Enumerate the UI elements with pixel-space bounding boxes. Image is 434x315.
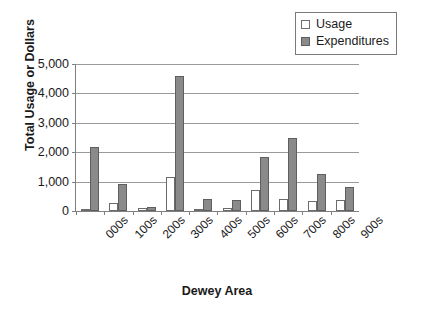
bar-group	[189, 64, 217, 211]
y-axis-tick-label: 1,000	[38, 175, 69, 188]
x-axis-tick-label: 700s	[301, 213, 329, 241]
y-axis-tick-label: 0	[62, 205, 69, 218]
usage-swatch-icon	[301, 20, 310, 29]
bar-usage	[138, 208, 147, 211]
bar-expenditures	[232, 200, 241, 211]
bar-usage	[109, 203, 118, 211]
bar-group	[274, 64, 302, 211]
x-axis-tick-label: 400s	[216, 213, 244, 241]
bar-usage	[166, 177, 175, 211]
expenditures-swatch-icon	[301, 37, 310, 46]
x-axis-tick-label: 900s	[358, 213, 386, 241]
y-axis-tick-label: 5,000	[38, 58, 69, 71]
bar-expenditures	[118, 184, 127, 211]
chart-legend: Usage Expenditures	[295, 12, 397, 55]
x-axis-tick-label: 600s	[273, 213, 301, 241]
bar-expenditures	[288, 138, 297, 211]
x-axis-tick-label: 500s	[244, 213, 272, 241]
legend-item-expenditures: Expenditures	[301, 33, 389, 50]
y-axis-tick-label: 2,000	[38, 146, 69, 159]
bar-usage	[81, 209, 90, 211]
bar-usage	[223, 208, 232, 211]
x-axis-tick-label: 800s	[329, 213, 357, 241]
x-axis-title: Dewey Area	[0, 284, 434, 298]
x-axis-tick-label: 000s	[103, 213, 131, 241]
bar-usage	[194, 209, 203, 211]
bar-group	[217, 64, 245, 211]
bar-group	[133, 64, 161, 211]
bar-usage	[279, 199, 288, 211]
bar-expenditures	[175, 76, 184, 211]
bar-expenditures	[345, 187, 354, 211]
x-axis-tick-label: 200s	[160, 213, 188, 241]
bar-expenditures	[317, 174, 326, 211]
bar-group	[161, 64, 189, 211]
plot-area: 01,0002,0003,0004,0005,000	[75, 64, 359, 212]
bar-groups	[76, 64, 359, 211]
legend-label-expenditures: Expenditures	[316, 35, 389, 48]
y-axis-tick-label: 3,000	[38, 117, 69, 130]
bar-usage	[308, 201, 317, 211]
bar-expenditures	[260, 157, 269, 211]
x-axis-tick-label: 100s	[131, 213, 159, 241]
y-axis-tick-label: 4,000	[38, 87, 69, 100]
bar-group	[246, 64, 274, 211]
bar-chart: Usage Expenditures Total Usage or Dollar…	[0, 0, 434, 315]
bar-expenditures	[90, 147, 99, 211]
bar-expenditures	[147, 207, 156, 211]
bar-group	[331, 64, 359, 211]
bar-group	[302, 64, 330, 211]
bar-usage	[251, 190, 260, 211]
x-axis-tick-labels: 000s100s200s300s400s500s600s700s800s900s	[75, 213, 358, 259]
bar-usage	[336, 200, 345, 211]
legend-item-usage: Usage	[301, 16, 389, 33]
x-axis-tick-label: 300s	[188, 213, 216, 241]
bar-group	[104, 64, 132, 211]
bar-expenditures	[203, 199, 212, 211]
legend-label-usage: Usage	[316, 18, 352, 31]
bar-group	[76, 64, 104, 211]
y-axis-title: Total Usage or Dollars	[23, 0, 37, 175]
